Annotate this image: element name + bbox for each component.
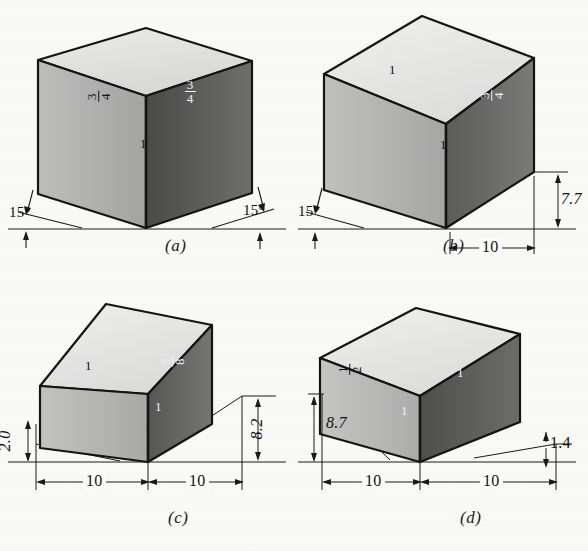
- fraction-numerator: 5: [159, 354, 172, 370]
- fraction-denominator: 4: [182, 92, 198, 105]
- panel-caption-b: (b): [443, 236, 464, 256]
- dimension-label-c-right-width: 10: [186, 472, 209, 490]
- edge-unit-label-d: 1: [401, 403, 408, 419]
- fraction-denominator: 4: [493, 88, 506, 104]
- fraction-denominator: 8: [174, 354, 187, 370]
- fraction-denominator: 4: [100, 89, 113, 105]
- dimension-label-c-left-height: 2.0: [0, 431, 14, 452]
- dimension-label-b-width: 10: [479, 238, 502, 256]
- face-ratio-label-a-left: 3 4: [85, 89, 113, 105]
- face-unit-label-c-top: 1: [85, 358, 92, 374]
- edge-unit-label-a: 1: [140, 136, 147, 152]
- dimension-label-d-left-width: 10: [362, 472, 385, 490]
- dimension-label-c-left-width: 10: [83, 472, 106, 490]
- panel-b: 1 3 4 1 15° 7.7 10: [294, 0, 588, 275]
- face-ratio-label-d-left: 1 2: [336, 362, 364, 378]
- fraction-numerator: 1: [336, 362, 349, 378]
- angle-label-a-right: 15°: [243, 202, 265, 219]
- panel-caption-a: (a): [165, 236, 186, 256]
- angle-label-a-left: 15°: [9, 204, 31, 221]
- panel-caption-c: (c): [168, 508, 188, 528]
- fraction-denominator: 2: [351, 362, 364, 378]
- face-ratio-label-b-right: 3 4: [478, 88, 506, 104]
- face-ratio-label-a-right: 3 4: [182, 78, 198, 106]
- figure-sheet: 3 4 3 4 1 15° 15° (a): [0, 0, 588, 551]
- panel-a: 3 4 3 4 1 15° 15°: [0, 0, 294, 275]
- dimension-label-d-right-width: 10: [480, 472, 503, 490]
- edge-unit-label-c: 1: [155, 399, 162, 415]
- fraction-numerator: 3: [85, 89, 98, 105]
- angle-label-b-left: 15°: [298, 203, 320, 220]
- panel-caption-d: (d): [460, 508, 481, 528]
- dimension-label-c-right-height: 8.2: [248, 419, 266, 440]
- fraction-numerator: 3: [182, 78, 198, 91]
- dimension-label-d-right-height: 1.4: [550, 434, 571, 452]
- face-ratio-label-c-right: 5 8: [159, 354, 187, 370]
- panel-c: 1 5 8 1 2.0 8.2 10 10: [0, 272, 294, 551]
- edge-unit-label-b: 1: [440, 137, 447, 153]
- face-unit-label-d-top: 1: [457, 365, 464, 381]
- panel-d: 1 2 1 1 8.7 1.4 10 10: [294, 272, 588, 551]
- dimension-label-b-height: 7.7: [561, 190, 582, 208]
- face-unit-label-b-top: 1: [389, 62, 396, 78]
- dimension-label-d-left-height: 8.7: [326, 414, 347, 432]
- fraction-numerator: 3: [478, 88, 491, 104]
